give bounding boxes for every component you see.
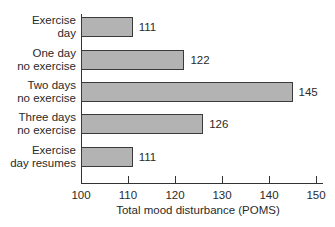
x-tick bbox=[316, 176, 317, 183]
x-tick-label: 100 bbox=[71, 189, 90, 201]
x-tick-label: 150 bbox=[306, 189, 325, 201]
x-tick bbox=[128, 176, 129, 183]
bar bbox=[81, 82, 293, 102]
bar bbox=[81, 50, 184, 70]
category-label-line: no exercise bbox=[17, 124, 76, 137]
value-label: 111 bbox=[139, 151, 156, 164]
category-label-line: One day bbox=[17, 47, 76, 60]
category-label: Three days no exercise bbox=[17, 111, 76, 137]
category-label-line: day bbox=[32, 27, 76, 40]
x-tick-label: 140 bbox=[259, 189, 278, 201]
x-tick bbox=[269, 176, 270, 183]
value-label: 126 bbox=[209, 118, 228, 131]
bar bbox=[81, 114, 203, 134]
category-label-line: no exercise bbox=[17, 60, 76, 73]
x-tick-label: 110 bbox=[119, 189, 137, 201]
category-label: Exercise day resumes bbox=[10, 144, 76, 170]
category-label-line: Two days bbox=[17, 79, 76, 92]
bar bbox=[81, 147, 133, 167]
x-tick bbox=[175, 176, 176, 183]
x-tick-label: 120 bbox=[165, 189, 184, 201]
value-label: 111 bbox=[139, 21, 156, 34]
category-label-line: Exercise bbox=[10, 144, 76, 157]
category-label: Exercise day bbox=[32, 14, 76, 40]
category-label-line: no exercise bbox=[17, 92, 76, 105]
value-label: 145 bbox=[299, 86, 318, 99]
x-axis-title: Total mood disturbance (POMS) bbox=[116, 204, 280, 216]
bar bbox=[81, 17, 133, 37]
category-label: One day no exercise bbox=[17, 47, 76, 73]
category-label-line: Exercise bbox=[32, 14, 76, 27]
x-tick bbox=[222, 176, 223, 183]
value-label: 122 bbox=[190, 54, 209, 67]
category-label-line: Three days bbox=[17, 111, 76, 124]
category-label: Two days no exercise bbox=[17, 79, 76, 105]
x-tick-label: 130 bbox=[212, 189, 231, 201]
category-label-line: day resumes bbox=[10, 157, 76, 170]
x-axis-line bbox=[81, 183, 323, 184]
